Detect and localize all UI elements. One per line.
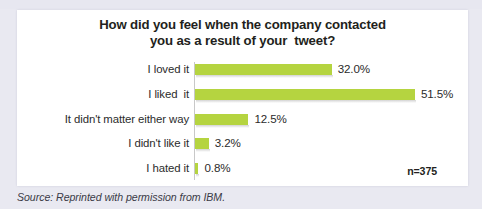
bar <box>195 89 415 100</box>
chart-panel: How did you feel when the company contac… <box>17 10 468 186</box>
chart-title-line-1: How did you feel when the company contac… <box>17 17 468 33</box>
bar <box>195 64 332 75</box>
category-label: I loved it <box>0 63 189 75</box>
bar-fill <box>195 64 332 75</box>
bar-shadow <box>196 125 249 128</box>
bar-value-label: 3.2% <box>215 136 241 149</box>
category-label: I hated it <box>0 162 189 174</box>
category-label: I didn't like it <box>0 137 189 149</box>
bar <box>195 163 198 174</box>
source-note: Source: Reprinted with permission from I… <box>17 191 225 203</box>
bar-row: I loved it32.0% <box>17 59 468 84</box>
bar <box>195 138 209 149</box>
chart-title-line-2: you as a result of your tweet? <box>17 33 468 49</box>
bar-value-label: 0.8% <box>204 161 230 174</box>
clipped-top-text-strip: . . . . . . . . . <box>0 0 482 9</box>
bar-fill <box>195 114 248 125</box>
bar <box>195 114 248 125</box>
category-label: I liked it <box>0 88 189 100</box>
bar-row: I liked it51.5% <box>17 84 468 109</box>
sample-size-label: n=375 <box>407 165 437 177</box>
bar-row: I didn't like it3.2% <box>17 133 468 158</box>
bar-fill <box>195 138 209 149</box>
bar-row: I hated it0.8% <box>17 158 468 183</box>
bar-value-label: 12.5% <box>254 112 286 125</box>
bar-value-label: 32.0% <box>338 62 370 75</box>
bar-shadow <box>196 100 416 103</box>
chart-title: How did you feel when the company contac… <box>17 17 468 49</box>
bar-value-label: 51.5% <box>421 87 453 100</box>
bar-fill <box>195 163 198 174</box>
bar-shadow <box>196 149 210 152</box>
plot-area: I loved it32.0%I liked it51.5%It didn't … <box>17 59 468 186</box>
bar-shadow <box>196 174 199 177</box>
bar-row: It didn't matter either way12.5% <box>17 109 468 134</box>
clipped-text: . . . . . . . . . <box>60 0 143 1</box>
bar-shadow <box>196 75 333 78</box>
category-label: It didn't matter either way <box>0 113 189 125</box>
bar-fill <box>195 89 415 100</box>
